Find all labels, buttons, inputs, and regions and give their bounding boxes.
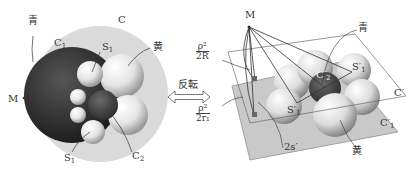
fraction-rho2-2r1: ρ² 2r₁ <box>196 104 210 124</box>
marker-upper <box>252 76 257 81</box>
sphere-small-1 <box>70 89 86 105</box>
label-s1-bottom: S1 <box>64 153 75 165</box>
label-m-left: M <box>8 94 18 104</box>
label-s1-prime-left: S′1 <box>287 105 301 117</box>
sphere-s1-bottom <box>81 120 105 144</box>
left-figure <box>23 26 168 162</box>
label-blue-left: 青 <box>28 16 38 26</box>
label-2s-prime: 2s′ <box>284 142 298 152</box>
label-s1-top: S1 <box>102 42 113 54</box>
label-m-right: M <box>245 10 255 20</box>
label-yellow-right: 黄 <box>352 146 362 156</box>
sphere-front-yellow <box>313 93 357 137</box>
right-figure <box>222 26 406 161</box>
label-c2: C2 <box>132 151 144 163</box>
sphere-s1-top <box>77 61 103 87</box>
marker-lower <box>252 112 257 117</box>
label-c-prime-plane: C′ <box>394 88 404 98</box>
fraction-rho2-2R: ρ² 2R <box>196 42 209 62</box>
label-c1: C1 <box>54 38 66 50</box>
label-yellow-left: 黄 <box>153 42 163 52</box>
sphere-small-2 <box>70 107 86 123</box>
leader-blue <box>32 36 33 62</box>
dark-circle-c2 <box>88 90 118 120</box>
label-c-outer: C <box>118 15 126 25</box>
double-arrow-icon <box>168 91 210 103</box>
label-inversion: 反転 <box>178 80 198 90</box>
label-c2-prime: C′2 <box>316 70 330 82</box>
label-s1-prime-right: S′1 <box>352 62 366 74</box>
label-blue-right: 青 <box>358 23 368 33</box>
point-m <box>23 97 26 100</box>
label-c1-prime-plane: C′1 <box>380 118 394 130</box>
point-m-prime <box>248 26 251 29</box>
